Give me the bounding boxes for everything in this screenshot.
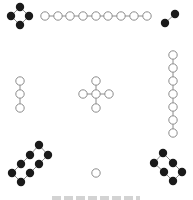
white-dot bbox=[16, 90, 24, 98]
black-dot bbox=[169, 159, 177, 167]
dot-group-top-left-4-black bbox=[7, 3, 33, 29]
black-dot bbox=[16, 3, 24, 11]
white-dot bbox=[66, 12, 74, 20]
black-dot bbox=[161, 19, 169, 27]
white-dot bbox=[169, 51, 177, 59]
white-dot bbox=[92, 77, 100, 85]
black-dot bbox=[171, 10, 179, 18]
black-dot bbox=[26, 151, 34, 159]
caption-cropped-text bbox=[52, 196, 140, 200]
black-dot bbox=[150, 159, 158, 167]
white-dot bbox=[79, 90, 87, 98]
black-dot bbox=[35, 141, 43, 149]
white-dot bbox=[92, 90, 100, 98]
white-dot bbox=[92, 104, 100, 112]
dot-group-center-5-white bbox=[79, 77, 113, 112]
dot-group-left-3-white bbox=[16, 77, 24, 112]
white-dot bbox=[169, 129, 177, 137]
white-dot bbox=[79, 12, 87, 20]
white-dot bbox=[117, 12, 125, 20]
white-dot bbox=[169, 116, 177, 124]
white-dot bbox=[92, 12, 100, 20]
white-dot bbox=[104, 12, 112, 20]
black-dot bbox=[26, 169, 34, 177]
black-dot bbox=[17, 160, 25, 168]
black-dot bbox=[8, 169, 16, 177]
black-dot bbox=[160, 168, 168, 176]
black-dot bbox=[44, 151, 52, 159]
dot-group-bottom-right-6-black bbox=[150, 149, 186, 185]
white-dot bbox=[143, 12, 151, 20]
white-dot bbox=[16, 77, 24, 85]
white-dot bbox=[54, 12, 62, 20]
black-dot bbox=[178, 168, 186, 176]
black-dot bbox=[7, 12, 15, 20]
black-dot bbox=[35, 160, 43, 168]
black-dot bbox=[169, 177, 177, 185]
white-dot bbox=[169, 103, 177, 111]
white-dot bbox=[92, 169, 100, 177]
dot-group-top-right-2-black bbox=[161, 10, 179, 27]
black-dot bbox=[16, 21, 24, 29]
white-dot bbox=[169, 90, 177, 98]
white-dot bbox=[41, 12, 49, 20]
black-dot bbox=[159, 149, 167, 157]
white-dot bbox=[169, 77, 177, 85]
white-dot bbox=[105, 90, 113, 98]
black-dot bbox=[17, 178, 25, 186]
white-dot bbox=[130, 12, 138, 20]
black-dot bbox=[25, 12, 33, 20]
luoshu-diagram bbox=[0, 0, 193, 200]
dot-group-bottom-1-white bbox=[92, 169, 100, 177]
dot-group-bottom-left-8-black bbox=[8, 141, 52, 186]
white-dot bbox=[16, 104, 24, 112]
dot-group-right-7-white bbox=[169, 51, 177, 137]
dot-group-top-9-white bbox=[41, 12, 151, 20]
white-dot bbox=[169, 64, 177, 72]
